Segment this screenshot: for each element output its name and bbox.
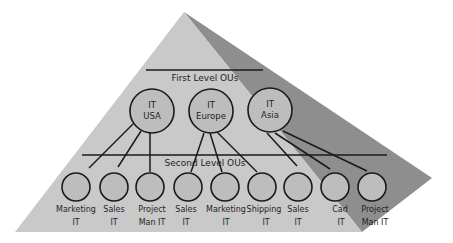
node-line1: Cad xyxy=(332,205,348,214)
node-line2: IT xyxy=(182,218,189,227)
node-line1: Project xyxy=(138,205,165,214)
node-line1: IT xyxy=(207,100,216,110)
diagram-canvas: First Level OUs Second Level OUs IT USA … xyxy=(0,0,453,243)
node-line1: Shipping xyxy=(247,205,282,214)
node-line2: IT xyxy=(262,218,269,227)
first-level-label: First Level OUs xyxy=(172,73,239,83)
node-line2: USA xyxy=(143,111,161,121)
node-line2: Asia xyxy=(261,110,279,120)
node-it-usa: IT USA xyxy=(130,89,174,133)
node-line1: Marketing xyxy=(206,205,246,214)
node-line2: IT xyxy=(337,218,344,227)
node-line1: Marketing xyxy=(56,205,96,214)
node-it-asia: IT Asia xyxy=(248,88,292,132)
node-line2: IT xyxy=(110,218,117,227)
node-line1: IT xyxy=(266,99,275,109)
node-line2: IT xyxy=(294,218,301,227)
node-line1: IT xyxy=(148,100,157,110)
node-line2: Man IT xyxy=(139,218,166,227)
node-line1: Project xyxy=(361,205,388,214)
node-line2: Man IT xyxy=(362,218,389,227)
second-level-label: Second Level OUs xyxy=(165,158,246,168)
node-it-europe: IT Europe xyxy=(189,89,233,133)
node-line1: Sales xyxy=(103,205,124,214)
node-line2: IT xyxy=(72,218,79,227)
node-line1: Sales xyxy=(175,205,196,214)
node-line1: Sales xyxy=(287,205,308,214)
ou-pyramid-diagram: First Level OUs Second Level OUs IT USA … xyxy=(0,0,453,243)
node-line2: IT xyxy=(222,218,229,227)
node-line2: Europe xyxy=(196,111,226,121)
